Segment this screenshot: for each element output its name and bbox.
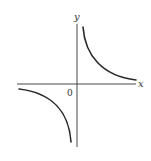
y-axis-label: y <box>73 11 80 22</box>
curve-branch-quadrant-3 <box>19 89 71 142</box>
x-axis-label: x <box>138 78 144 89</box>
origin-label: 0 <box>67 88 73 98</box>
curve-branch-quadrant-1 <box>83 27 136 80</box>
hyperbola-diagram: y x 0 <box>0 0 151 161</box>
